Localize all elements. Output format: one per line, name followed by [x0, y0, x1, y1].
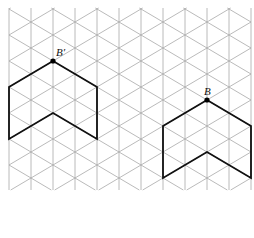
grid-line: [9, 61, 227, 190]
grid-line: [9, 9, 251, 152]
grid-line: [9, 165, 51, 190]
grid-line: [227, 8, 251, 22]
grid-line: [9, 139, 95, 190]
grid-line: [11, 48, 251, 190]
vertex-point: [50, 58, 55, 63]
grid-line: [139, 8, 251, 74]
vertex-label: B: [204, 85, 211, 97]
grid-line: [9, 8, 99, 61]
vertex-label: B′: [56, 46, 66, 58]
grid-line: [9, 22, 251, 165]
isometric-grid: [9, 8, 251, 190]
grid-line: [231, 178, 251, 190]
grid-line: [9, 8, 55, 35]
isometric-grid-figure: B′B: [0, 0, 254, 238]
vertex-point: [204, 97, 209, 102]
diagram-canvas: B′B B′ B: [0, 0, 254, 238]
